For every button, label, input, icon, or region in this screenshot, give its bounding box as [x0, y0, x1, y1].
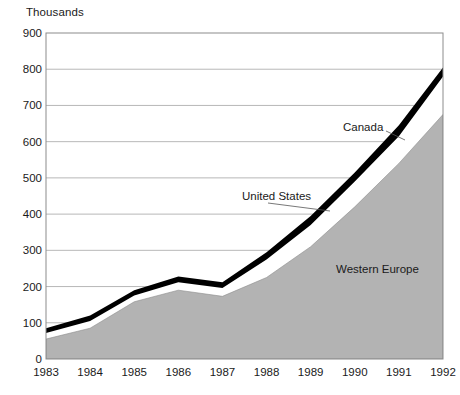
x-tick-1986: 1986 — [166, 366, 192, 378]
annotation-western-europe: Western Europe — [336, 263, 419, 275]
x-tick-1991: 1991 — [386, 366, 412, 378]
x-tick-1992: 1992 — [430, 366, 456, 378]
x-tick-1987: 1987 — [210, 366, 236, 378]
annotation-canada: Canada — [343, 121, 383, 133]
x-tick-1988: 1988 — [254, 366, 280, 378]
x-tick-1985: 1985 — [121, 366, 147, 378]
x-tick-1983: 1983 — [33, 366, 59, 378]
x-tick-1989: 1989 — [298, 366, 324, 378]
x-tick-1990: 1990 — [342, 366, 368, 378]
chart-container: Thousands 0100200300400500600700800900 1… — [0, 0, 460, 395]
annotation-united-states: United States — [242, 190, 311, 202]
plot-area — [0, 0, 460, 395]
x-tick-1984: 1984 — [77, 366, 103, 378]
